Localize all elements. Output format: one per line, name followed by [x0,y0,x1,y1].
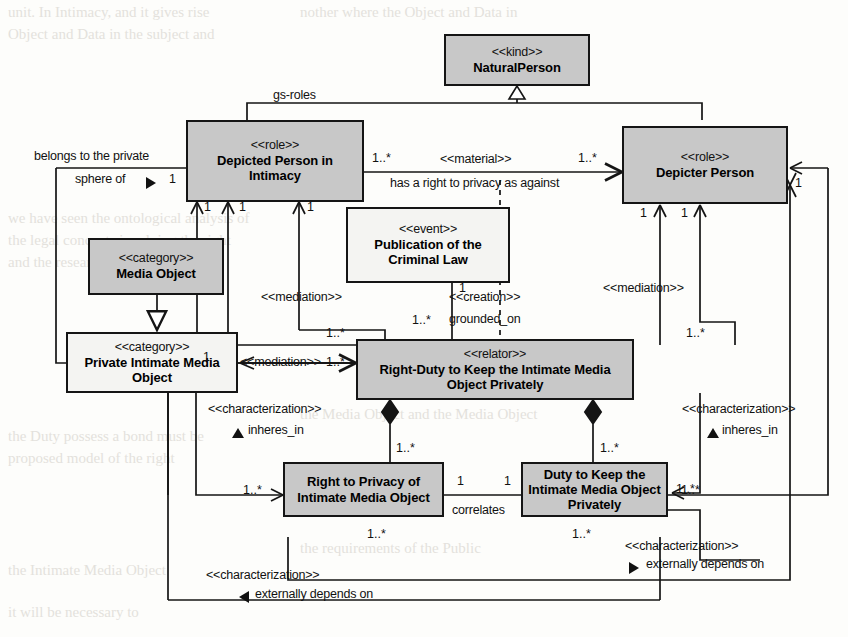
label-characterization-right-name: inheres_in [722,423,778,437]
node-name: NaturalPerson [469,60,565,75]
navigation-triangle-right-icon [629,562,639,574]
multiplicity-correlates-right: 1 [504,474,511,488]
node-name: Right to Privacy of Intimate Media Objec… [285,474,442,505]
navigation-triangle-up-left-icon [232,428,244,438]
multiplicity-depicted-med-a: 1 [204,200,211,214]
node-natural-person[interactable]: <<kind>> NaturalPerson [444,34,590,86]
multiplicity-correlates-left: 1 [457,474,464,488]
multiplicity-material-target: 1..* [578,151,597,165]
label-material-stereotype: <<material>> [440,152,511,166]
node-right-duty-relator[interactable]: <<relator>> Right-Duty to Keep the Intim… [356,339,634,400]
node-duty-to-keep[interactable]: Duty to Keep the Intimate Media Object P… [521,462,668,517]
label-characterization-left-stereotype: <<characterization>> [208,402,321,416]
node-name: Depicter Person [652,165,758,180]
multiplicity-duty-right: 1..* [676,482,695,496]
multiplicity-depicted-med-b: 1 [239,200,246,214]
navigation-triangle-up-right-icon [707,428,719,438]
label-gs-roles: gs-roles [273,88,316,102]
node-name: Right-Duty to Keep the Intimate Media Ob… [358,362,632,393]
node-right-to-privacy[interactable]: Right to Privacy of Intimate Media Objec… [283,462,444,517]
label-characterization-left-name: inheres_in [248,423,304,437]
multiplicity-mediation-right: 1..* [686,326,705,340]
multiplicity-belongs-sphere: 1 [169,172,176,186]
diagram-canvas: unit. In Intimacy, and it gives risenoth… [0,0,848,637]
node-stereotype: <<role>> [251,138,299,153]
multiplicity-mediation-left-lower: 1..* [326,355,345,369]
node-name: Duty to Keep the Intimate Media Object P… [523,467,666,513]
label-belongs-private-sphere-line2: sphere of [75,172,125,186]
label-characterization-right-stereotype: <<characterization>> [682,402,795,416]
node-name: Media Object [112,266,200,281]
label-correlates: correlates [452,503,505,517]
multiplicity-private-media-mediation: 1 [203,350,210,364]
label-mediation-left-upper: <<mediation>> [261,290,342,304]
label-mediation-left-lower: <<mediation>> [240,355,321,369]
multiplicity-depicted-med-c: 1 [307,200,314,214]
multiplicity-creation: 1..* [412,313,431,327]
navigation-triangle-icon [146,177,156,189]
multiplicity-depicter-med-b: 1 [681,206,688,220]
multiplicity-duty-top: 1..* [600,441,619,455]
node-stereotype: <<event>> [399,222,457,237]
node-stereotype: <<kind>> [492,45,543,60]
label-material-name: has a right to privacy as against [390,176,559,190]
node-name: Private Intimate Media Object [68,355,236,386]
label-characterization-bottom-left-stereotype: <<characterization>> [206,568,319,582]
navigation-triangle-left-icon [239,591,249,603]
multiplicity-depicter-med-c: 1 [795,176,802,190]
label-mediation-right: <<mediation>> [603,281,684,295]
multiplicity-mediation-left-upper: 1..* [326,326,345,340]
label-characterization-bottom-left-name: externally depends on [255,587,373,601]
label-characterization-bottom-right-name: externally depends on [646,557,764,571]
node-depicted-person-in-intimacy[interactable]: <<role>> Depicted Person in Intimacy [186,120,364,202]
node-stereotype: <<category>> [115,340,190,355]
node-stereotype: <<category>> [119,251,194,266]
node-stereotype: <<relator>> [464,347,526,362]
node-private-intimate-media-object[interactable]: <<category>> Private Intimate Media Obje… [66,332,238,393]
multiplicity-depicter-med-a: 1 [640,206,647,220]
node-name: Depicted Person in Intimacy [188,153,362,184]
node-depicter-person[interactable]: <<role>> Depicter Person [622,126,788,204]
node-publication-of-criminal-law[interactable]: <<event>> Publication of the Criminal La… [346,207,510,283]
multiplicity-inheres-left: 1..* [243,483,262,497]
node-stereotype: <<role>> [681,150,729,165]
multiplicity-duty-bottom: 1..* [572,527,591,541]
multiplicity-material-source: 1..* [372,151,391,165]
node-name: Publication of the Criminal Law [348,237,508,268]
multiplicity-publication-creation: 1 [459,281,466,295]
multiplicity-right-top: 1..* [396,441,415,455]
label-creation-name: grounded_on [449,312,520,326]
node-media-object[interactable]: <<category>> Media Object [88,238,224,295]
label-belongs-private-sphere-line1: belongs to the private [34,149,149,163]
multiplicity-right-bottom: 1..* [367,527,386,541]
label-characterization-bottom-right-stereotype: <<characterization>> [625,539,738,553]
